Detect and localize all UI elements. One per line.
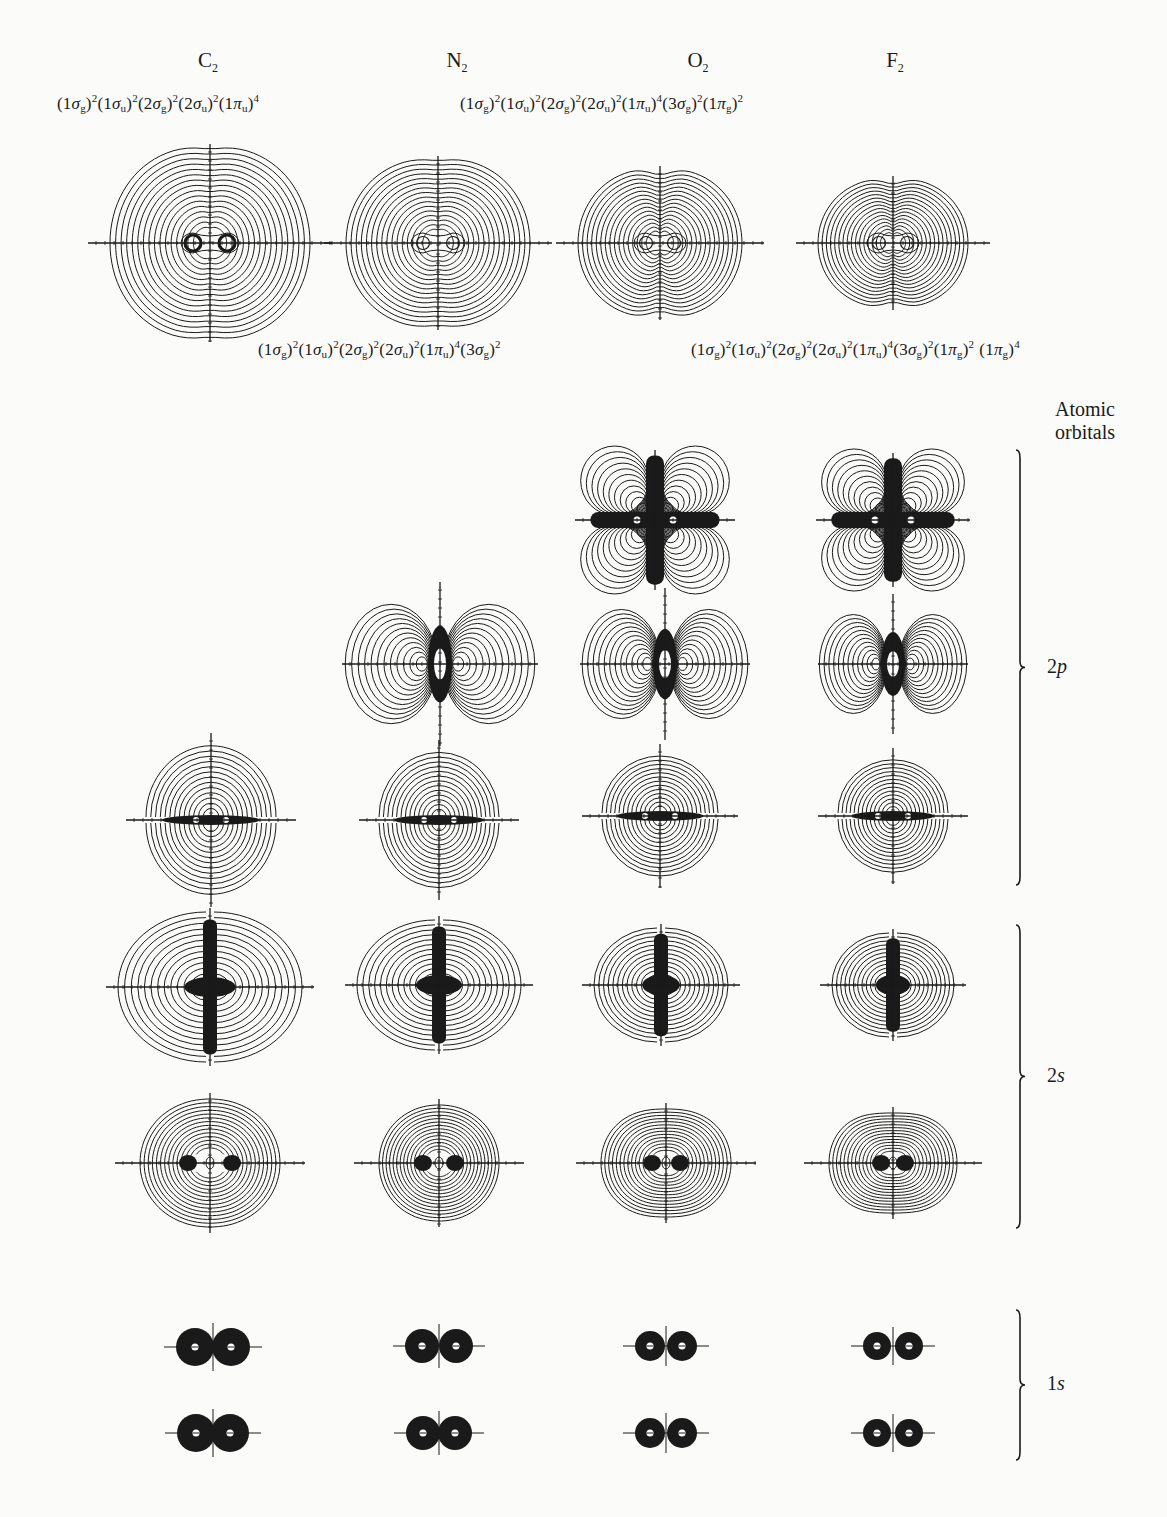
bracket-1s <box>1016 1310 1025 1460</box>
shell-label-2s: 2s <box>1047 1064 1065 1087</box>
shell-label-1s: 1s <box>1047 1372 1065 1395</box>
bracket-2p <box>1016 450 1025 885</box>
bracket-2s <box>1016 925 1025 1228</box>
shell-label-2p: 2p <box>1047 655 1067 678</box>
shell-brackets <box>0 0 1167 1517</box>
